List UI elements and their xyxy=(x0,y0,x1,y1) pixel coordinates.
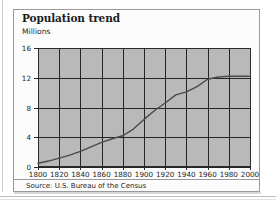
y-axis-tick-label: 8 xyxy=(15,104,31,113)
x-axis-tick-mark xyxy=(123,167,124,170)
x-axis-tick-mark xyxy=(102,167,103,170)
y-axis-tick-label: 4 xyxy=(15,133,31,142)
y-axis-tick-mark xyxy=(34,48,38,49)
footer-divider xyxy=(14,179,259,180)
x-axis-tick-label: 2000 xyxy=(237,170,263,179)
y-axis-tick-mark xyxy=(34,108,38,109)
x-axis-tick-mark xyxy=(229,167,230,170)
y-axis-tick-label: 16 xyxy=(15,44,31,53)
x-axis-tick-mark xyxy=(186,167,187,170)
page-title: Population trend xyxy=(22,12,120,24)
x-axis-tick-mark xyxy=(165,167,166,170)
x-axis-tick-mark xyxy=(144,167,145,170)
source-note: Source: U.S. Bureau of the Census xyxy=(26,182,146,190)
chart-card-shadow xyxy=(14,192,261,194)
population-line-series xyxy=(38,48,250,167)
page-bottom-rule xyxy=(0,196,276,197)
y-axis-tick-label: 12 xyxy=(15,74,31,83)
page-left-rule xyxy=(2,0,3,192)
plot-right-border xyxy=(250,48,251,167)
y-axis-tick-mark xyxy=(34,78,38,79)
x-axis-tick-mark xyxy=(59,167,60,170)
x-axis-tick-mark xyxy=(208,167,209,170)
figure-page: Population trend Millions 0481216 180018… xyxy=(0,0,276,204)
y-axis-unit-label: Millions xyxy=(22,27,50,36)
y-axis-tick-mark xyxy=(34,137,38,138)
x-axis-tick-mark xyxy=(38,167,39,170)
x-axis-tick-mark xyxy=(250,167,251,170)
page-bottom-rule-secondary xyxy=(0,199,276,200)
x-axis-tick-mark xyxy=(80,167,81,170)
